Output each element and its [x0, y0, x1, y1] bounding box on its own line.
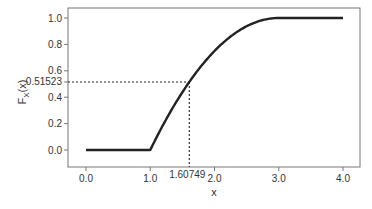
y-tick-label: 0.4	[48, 92, 62, 103]
x-tick-label: 4.0	[336, 173, 350, 184]
y-tick-label: 0.51523	[26, 76, 63, 87]
cdf-chart: 0.00.20.40.515230.60.81.0 0.01.01.607492…	[0, 0, 372, 209]
x-axis-label: x	[211, 186, 217, 198]
dotted-reference-lines	[68, 82, 189, 167]
y-tick-label: 0.6	[48, 65, 62, 76]
y-tick-label: 0.2	[48, 118, 62, 129]
y-tick-label: 0.0	[48, 145, 62, 156]
plot-frame	[68, 8, 360, 167]
x-tick-label: 1.60749	[169, 169, 206, 180]
x-axis-ticks: 0.01.01.607492.03.04.0	[79, 167, 350, 184]
x-tick-label: 3.0	[272, 173, 286, 184]
cdf-curve	[86, 18, 343, 150]
x-tick-label: 1.0	[143, 173, 157, 184]
x-tick-label: 0.0	[79, 173, 93, 184]
y-tick-label: 0.8	[48, 39, 62, 50]
y-tick-label: 1.0	[48, 13, 62, 24]
x-tick-label: 2.0	[208, 173, 222, 184]
y-axis-ticks: 0.00.20.40.515230.60.81.0	[26, 13, 68, 156]
